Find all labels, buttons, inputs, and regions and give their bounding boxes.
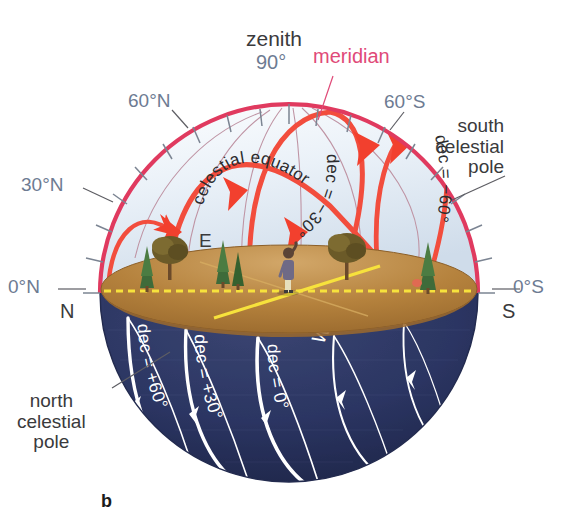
label-zenith: zenith	[246, 28, 302, 51]
shrub-accent	[412, 279, 422, 287]
celestial-sphere-figure: dec = +60° dec = +30° dec = 0° W	[0, 0, 575, 524]
label-cardinal-east: E	[199, 231, 212, 252]
label-zenith-altitude: 90°	[256, 52, 286, 74]
south-celestial-pole-line-1: south	[435, 116, 504, 137]
celestial-sphere-illustration: dec = +60° dec = +30° dec = 0° W	[0, 0, 575, 524]
label-dec-30n: 30°N	[21, 175, 63, 196]
north-celestial-pole-line-2: celestial	[17, 412, 86, 433]
north-celestial-pole-line-1: north	[17, 391, 86, 412]
label-cardinal-north: N	[60, 301, 74, 323]
label-dec-60n: 60°N	[128, 91, 170, 112]
figure-caption: b	[101, 492, 112, 511]
label-north-celestial-pole: north celestial pole	[17, 391, 86, 453]
label-dec-60s: 60°S	[384, 92, 425, 113]
label-dec-0n: 0°N	[8, 277, 40, 298]
south-celestial-pole-line-3: pole	[435, 157, 504, 178]
label-south-celestial-pole: south celestial pole	[435, 116, 504, 178]
north-celestial-pole-line-3: pole	[17, 432, 86, 453]
label-cardinal-south: S	[502, 301, 515, 323]
label-dec-0s: 0°S	[513, 277, 544, 298]
south-celestial-pole-line-2: celestial	[435, 137, 504, 158]
label-meridian: meridian	[313, 46, 390, 68]
